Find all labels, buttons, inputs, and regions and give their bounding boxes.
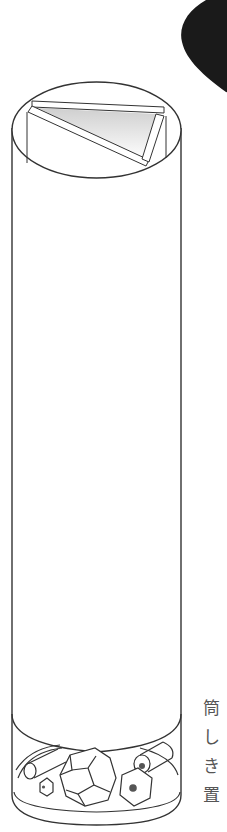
faceted-gem xyxy=(60,748,116,806)
caption-char: 置 xyxy=(203,787,227,816)
kaleidoscope-illustration xyxy=(0,0,227,832)
rod-right xyxy=(134,742,173,773)
caption-char: 筒 xyxy=(203,700,227,729)
dark-blob-shape xyxy=(176,0,227,102)
object-chamber xyxy=(12,714,181,825)
top-opening xyxy=(12,82,181,178)
caption-char: し xyxy=(203,729,227,758)
caption-text: 筒 し き 置 xyxy=(203,700,227,816)
hex-nut-small xyxy=(40,778,53,796)
cylinder-body xyxy=(12,128,181,795)
caption-char: き xyxy=(203,758,227,787)
hex-nut-large xyxy=(120,768,152,806)
